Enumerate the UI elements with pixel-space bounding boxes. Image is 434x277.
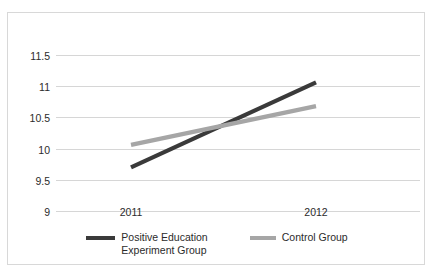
legend-label-line2: Experiment Group <box>121 244 206 256</box>
chart-legend: Positive EducationExperiment Group Contr… <box>8 231 426 257</box>
chart-frame: 11.5 11 10.5 10 9.5 9 2011 2012 Positive… <box>7 12 425 265</box>
legend-label-line1: Positive Education <box>121 231 207 243</box>
series-line-control-group <box>131 106 316 145</box>
legend-entry-control-group: Control Group <box>250 231 348 244</box>
legend-label-positive-education-experiment-group: Positive EducationExperiment Group <box>121 231 207 257</box>
line-swatch-gray-icon <box>250 236 276 240</box>
chart-screenshot: 11.5 11 10.5 10 9.5 9 2011 2012 Positive… <box>0 0 434 277</box>
series-lines <box>8 13 426 266</box>
legend-label-control-group: Control Group <box>282 231 348 244</box>
line-swatch-dark-icon <box>86 236 115 240</box>
legend-entry-positive-education-experiment-group: Positive EducationExperiment Group <box>86 231 207 257</box>
